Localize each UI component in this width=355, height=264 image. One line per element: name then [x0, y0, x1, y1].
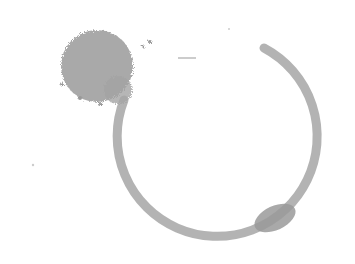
stain-graphic — [0, 0, 355, 264]
stain-image — [0, 0, 355, 264]
splatter-blob — [60, 30, 152, 106]
specks — [32, 28, 230, 166]
stain-ring — [117, 48, 317, 238]
